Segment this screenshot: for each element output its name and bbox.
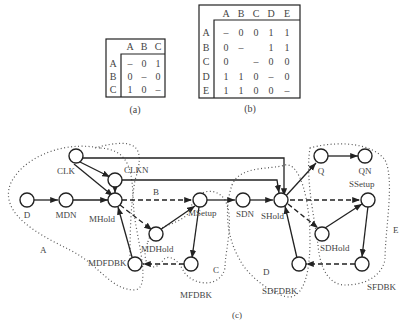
table-a-col-header: C (155, 41, 162, 52)
node-qn (358, 149, 372, 163)
region-label-a: A (40, 245, 47, 255)
label-mfdbk: MFDBK (180, 290, 213, 300)
region-label-e: E (393, 225, 399, 235)
node-sdhold (315, 227, 329, 241)
region-label-b: B (153, 187, 159, 197)
table-b-row-label: E (203, 85, 209, 96)
node-ssetup (361, 193, 375, 207)
label-sdfdbk: SDFDBK (262, 286, 298, 296)
table-b-cell: 0 (285, 71, 290, 82)
label-mdhold: MDHold (141, 244, 174, 254)
caption-c: (c) (232, 310, 242, 320)
table-b-row-label: B (203, 42, 210, 53)
table-b-cell: 1 (285, 27, 290, 38)
table-a: A B C A B C – 0 1 0 – 0 1 0 – (a) (106, 39, 165, 116)
node-mdn (59, 193, 73, 207)
table-a-col-header: B (141, 41, 148, 52)
node-mdfdbk (128, 257, 142, 271)
table-a-cell: – (127, 58, 134, 69)
table-b-col-header: A (222, 8, 230, 19)
node-shold (274, 193, 288, 207)
table-a-col-header: A (126, 41, 134, 52)
table-b-cell: – (268, 71, 275, 82)
node-sdn (236, 193, 250, 207)
figure: A B C A B C – 0 1 0 – 0 1 0 – (a) A B C … (0, 0, 407, 329)
graph-c: CLK CLKN D MDN MHold MDHold MSetup MDFDB… (8, 143, 399, 320)
label-msetup: MSetup (188, 208, 217, 218)
table-b-cell: 0 (269, 85, 274, 96)
label-sdn: SDN (236, 209, 255, 219)
table-b-cell: 0 (224, 42, 229, 53)
table-a-cell: – (155, 84, 162, 95)
label-sfdbk: SFDBK (367, 282, 397, 292)
table-a-cell: 1 (156, 58, 161, 69)
table-b-cell: 1 (269, 27, 274, 38)
region-d (227, 165, 310, 297)
label-qn: QN (359, 166, 372, 176)
table-b-cell: – (223, 27, 230, 38)
table-a-cell: 0 (128, 71, 133, 82)
label-mhold: MHold (89, 214, 116, 224)
table-b-cell: 0 (285, 56, 290, 67)
table-b-cell: – (284, 85, 291, 96)
table-b-cell: – (238, 42, 245, 53)
table-b-row-label: A (202, 27, 210, 38)
region-label-c: C (213, 265, 219, 275)
table-b-cell: 0 (254, 85, 259, 96)
table-b-cell: 1 (269, 42, 274, 53)
table-a-row-label: B (110, 71, 117, 82)
table-b-col-header: C (253, 8, 260, 19)
label-clk: CLK (57, 166, 76, 176)
node-mdhold (149, 227, 163, 241)
table-a-cell: 0 (142, 58, 147, 69)
table-b-cell: 1 (224, 85, 229, 96)
node-q (314, 149, 328, 163)
label-sdhold: SDHold (320, 243, 350, 253)
table-b-cell: 1 (239, 71, 244, 82)
table-a-cell: 0 (156, 71, 161, 82)
caption-b: (b) (244, 103, 256, 115)
table-b-cell: 0 (254, 27, 259, 38)
table-b: A B C D E A B C D E – 0 0 1 1 0 – 1 1 0 … (199, 5, 300, 115)
region-label-d: D (263, 267, 270, 277)
label-shold: SHold (261, 211, 285, 221)
table-a-cell: – (141, 71, 148, 82)
table-a-row-label: A (109, 58, 117, 69)
table-b-cell: 0 (269, 56, 274, 67)
label-d: D (24, 210, 31, 220)
label-clkn: CLKN (124, 165, 149, 175)
label-mdfdbk: MDFDBK (88, 258, 127, 268)
label-mdn: MDN (55, 210, 77, 220)
label-q: Q (318, 166, 325, 176)
table-b-cell: 1 (224, 71, 229, 82)
table-b-cell: 0 (254, 71, 259, 82)
table-b-cell: 1 (239, 85, 244, 96)
table-a-cell: 0 (142, 84, 147, 95)
node-sdfdbk (292, 257, 306, 271)
table-a-cell: 1 (128, 84, 133, 95)
table-b-cell: 1 (285, 42, 290, 53)
table-b-col-header: E (284, 8, 290, 19)
node-mfdbk (184, 257, 198, 271)
table-b-col-header: B (238, 8, 245, 19)
node-clk (69, 149, 83, 163)
caption-a: (a) (129, 104, 140, 116)
node-msetup (193, 193, 207, 207)
table-b-cell: 0 (224, 56, 229, 67)
table-b-row-label: D (202, 71, 209, 82)
table-b-col-header: D (267, 8, 274, 19)
node-clkn (108, 173, 122, 187)
table-a-row-label: C (110, 84, 117, 95)
table-b-row-label: C (203, 56, 210, 67)
table-b-cell: 0 (239, 27, 244, 38)
table-b-cell: – (253, 56, 260, 67)
node-sfdbk (355, 257, 369, 271)
node-d (20, 193, 34, 207)
node-mhold (108, 193, 122, 207)
label-ssetup: SSetup (349, 179, 375, 189)
